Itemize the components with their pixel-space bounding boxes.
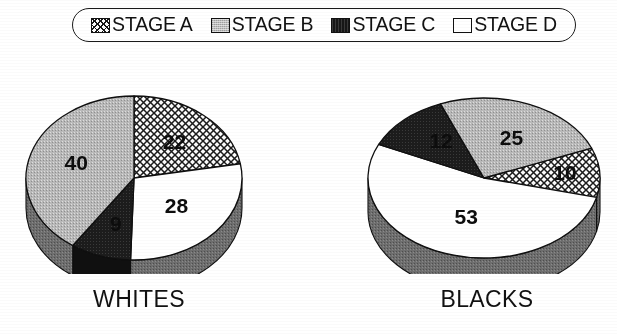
slice-value-stage-c: 12 — [429, 129, 452, 152]
pie-chart-blacks: 10531225 — [362, 78, 612, 274]
legend-label-stage-c: STAGE C — [352, 15, 435, 35]
slice-value-stage-a: 10 — [553, 161, 576, 184]
legend-item-stage-a: STAGE A — [91, 15, 193, 35]
legend-label-stage-b: STAGE B — [232, 15, 314, 35]
slice-value-stage-d: 53 — [455, 205, 478, 228]
gray-swatch-icon — [211, 18, 230, 33]
legend-item-stage-b: STAGE B — [211, 15, 314, 35]
legend-label-stage-d: STAGE D — [474, 15, 557, 35]
pie-chart-blacks-svg: 10531225 — [362, 78, 612, 274]
legend-item-stage-d: STAGE D — [453, 15, 557, 35]
chart-legend: STAGE A STAGE B STAGE C STAGE D — [72, 8, 576, 42]
slice-value-stage-a: 22 — [163, 130, 186, 153]
pie-chart-whites: 2228940 — [14, 78, 264, 274]
pie-caption-whites: WHITES — [14, 288, 264, 311]
slice-value-stage-b: 40 — [65, 151, 88, 174]
slice-value-stage-c: 9 — [110, 212, 122, 235]
legend-label-stage-a: STAGE A — [112, 15, 193, 35]
legend-item-stage-c: STAGE C — [331, 15, 435, 35]
slice-value-stage-b: 25 — [500, 126, 524, 149]
crosshatch-swatch-icon — [91, 18, 110, 33]
white-swatch-icon — [453, 18, 472, 33]
slice-value-stage-d: 28 — [165, 194, 189, 217]
black-swatch-icon — [331, 18, 350, 33]
pie-chart-whites-svg: 2228940 — [14, 78, 264, 274]
pie-caption-blacks: BLACKS — [362, 288, 612, 311]
pie-chart-figure: STAGE A STAGE B STAGE C STAGE D 2228940 … — [0, 0, 617, 334]
